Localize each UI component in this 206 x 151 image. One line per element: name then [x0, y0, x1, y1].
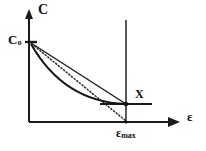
epsilon-max-marker: [124, 120, 127, 123]
x-point-label: X: [135, 88, 144, 100]
c-zero-label-subscript: o: [17, 38, 21, 47]
arrow-up-icon: [25, 9, 33, 19]
x-axis: [29, 117, 180, 127]
arrow-right-icon: [168, 117, 180, 127]
epsilon-max-label: εmax: [116, 127, 136, 139]
plot-canvas: [0, 0, 206, 151]
epsilon-max-label-subscript: max: [121, 131, 136, 140]
y-axis-label: C: [38, 3, 48, 17]
x-point-marker: [124, 102, 129, 107]
x-axis-label: ε: [187, 110, 193, 123]
dotted-line: [32, 44, 126, 121]
straight-chord-line: [31, 43, 126, 104]
c-zero-label: Co: [8, 33, 21, 46]
y-axis: [25, 9, 33, 122]
concentration-strain-diagram: C Co ε εmax X: [0, 0, 206, 151]
c-zero-label-base: C: [8, 32, 17, 47]
